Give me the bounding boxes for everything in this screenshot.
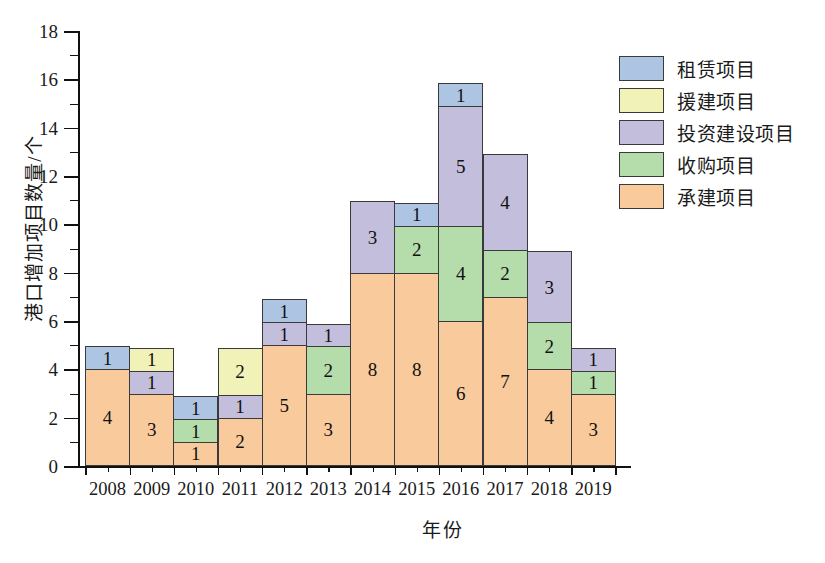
bar-segment[interactable]: 6 — [438, 321, 483, 466]
bar-segment[interactable]: 2 — [527, 322, 572, 370]
x-tick-minor — [373, 466, 374, 472]
x-tick — [439, 466, 440, 475]
bar-segment-value: 5 — [456, 157, 466, 176]
bar-segment[interactable]: 5 — [262, 345, 307, 466]
bar-segment[interactable]: 2 — [483, 250, 528, 298]
x-tick — [130, 466, 131, 475]
bar-segment[interactable]: 3 — [306, 394, 351, 467]
bar-segment[interactable]: 4 — [527, 369, 572, 466]
bar-segment[interactable]: 1 — [571, 371, 616, 395]
bar-segment-value: 3 — [324, 420, 334, 439]
bar-2017[interactable]: 427 — [483, 156, 528, 466]
bar-segment-value: 4 — [544, 408, 554, 427]
bar-segment[interactable]: 8 — [350, 273, 395, 466]
bar-segment[interactable]: 3 — [350, 201, 395, 274]
bar-segment[interactable]: 2 — [218, 418, 263, 466]
bar-segment-value: 4 — [456, 264, 466, 283]
bar-segment[interactable]: 1 — [306, 324, 351, 348]
bar-segment[interactable]: 1 — [129, 371, 174, 395]
bar-segment[interactable]: 1 — [173, 442, 218, 466]
bar-segment[interactable]: 2 — [394, 226, 439, 274]
x-tick-minor — [461, 466, 462, 472]
y-tick — [64, 418, 78, 420]
y-tick-minor — [70, 249, 78, 250]
bar-segment-value: 8 — [368, 360, 378, 379]
bar-2014[interactable]: 38 — [350, 203, 395, 466]
bar-segment[interactable]: 2 — [218, 348, 263, 396]
x-tick-label: 2009 — [133, 479, 170, 500]
legend-item-1[interactable]: 援建项目 — [619, 84, 819, 116]
bar-2011[interactable]: 212 — [218, 349, 263, 466]
bar-2008[interactable]: 14 — [85, 348, 130, 466]
bar-2016[interactable]: 1546 — [438, 85, 483, 466]
bar-segment[interactable]: 3 — [571, 394, 616, 467]
legend-swatch — [619, 152, 664, 177]
y-tick-label: 18 — [39, 22, 58, 41]
y-tick-minor — [70, 297, 78, 298]
bar-segment-value: 1 — [589, 373, 599, 392]
bar-segment[interactable]: 1 — [129, 348, 174, 372]
x-tick-minor — [593, 466, 594, 472]
bar-segment[interactable]: 2 — [306, 346, 351, 394]
bar-segment[interactable]: 1 — [218, 395, 263, 419]
x-tick — [615, 466, 616, 475]
bar-segment-value: 3 — [544, 278, 554, 297]
bar-segment-value: 1 — [589, 350, 599, 369]
y-tick — [64, 369, 78, 371]
x-tick — [306, 466, 307, 475]
bar-2009[interactable]: 113 — [129, 349, 174, 466]
bar-2019[interactable]: 113 — [571, 349, 616, 466]
x-tick — [218, 466, 219, 475]
bar-segment[interactable]: 3 — [527, 251, 572, 324]
bar-segment[interactable]: 4 — [483, 154, 528, 251]
bar-2018[interactable]: 324 — [527, 252, 572, 466]
y-tick — [64, 466, 78, 468]
legend-swatch — [619, 56, 664, 81]
legend-item-3[interactable]: 收购项目 — [619, 148, 819, 180]
bar-segment[interactable]: 1 — [173, 419, 218, 443]
bar-segment[interactable]: 8 — [394, 273, 439, 466]
y-tick-label: 14 — [39, 118, 58, 137]
y-tick-label: 12 — [39, 167, 58, 186]
bar-segment[interactable]: 1 — [262, 299, 307, 323]
bar-segment[interactable]: 1 — [173, 396, 218, 420]
y-tick-minor — [70, 345, 78, 346]
bar-2012[interactable]: 115 — [262, 301, 307, 466]
bar-segment-value: 2 — [235, 362, 245, 381]
legend-swatch — [619, 88, 664, 113]
bar-segment-value: 1 — [103, 349, 113, 368]
bar-segment[interactable]: 7 — [483, 297, 528, 466]
x-tick-minor — [328, 466, 329, 472]
y-tick — [64, 224, 78, 226]
x-tick-minor — [196, 466, 197, 472]
bar-2013[interactable]: 123 — [306, 325, 351, 466]
bar-segment[interactable]: 1 — [262, 322, 307, 346]
stacked-bar-chart: 港口增加项目数量/个 024681012141618 2008200920102… — [0, 0, 825, 563]
bar-segment[interactable]: 1 — [438, 83, 483, 107]
bar-segment[interactable]: 1 — [571, 348, 616, 372]
bar-segment[interactable]: 3 — [129, 394, 174, 467]
bar-segment-value: 3 — [589, 420, 599, 439]
bar-segment[interactable]: 1 — [85, 346, 130, 370]
bar-segment-value: 1 — [191, 399, 201, 418]
legend-label: 投资建设项目 — [677, 119, 794, 146]
x-tick-label: 2017 — [487, 479, 524, 500]
x-tick — [350, 466, 351, 475]
bar-2010[interactable]: 111 — [173, 397, 218, 466]
x-tick — [85, 466, 86, 475]
bar-segment[interactable]: 5 — [438, 106, 483, 227]
x-tick-minor — [108, 466, 109, 472]
bar-segment[interactable]: 1 — [394, 203, 439, 227]
legend-item-2[interactable]: 投资建设项目 — [619, 116, 819, 148]
bar-2015[interactable]: 128 — [394, 204, 439, 466]
x-tick — [395, 466, 396, 475]
legend-swatch — [619, 120, 664, 145]
x-tick-minor — [417, 466, 418, 472]
bar-segment[interactable]: 4 — [85, 369, 130, 466]
legend-item-0[interactable]: 租赁项目 — [619, 52, 819, 84]
bar-segment-value: 2 — [235, 432, 245, 451]
x-tick-label: 2018 — [531, 479, 568, 500]
y-tick-label: 0 — [49, 457, 59, 476]
legend-item-4[interactable]: 承建项目 — [619, 180, 819, 212]
bar-segment[interactable]: 4 — [438, 226, 483, 323]
